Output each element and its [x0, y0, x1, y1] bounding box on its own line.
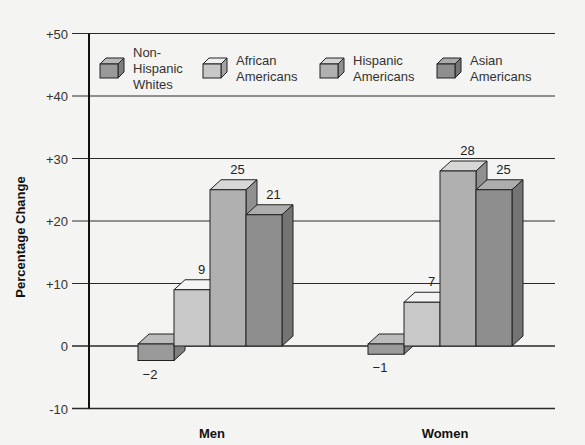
- bar-front-face: [440, 171, 476, 346]
- bar-side-face: [282, 205, 293, 346]
- bar-front-face: [138, 344, 174, 361]
- legend-swatch-front: [203, 64, 221, 78]
- bar-front-face: [476, 190, 512, 346]
- bar: 25: [476, 162, 523, 346]
- y-tick-label: +10: [46, 277, 68, 292]
- category-labels: MenWomen: [199, 426, 468, 441]
- legend-label: Hispanic: [353, 53, 403, 68]
- bar-group-men: −292521: [138, 162, 293, 382]
- legend-item: AfricanAmericans: [203, 53, 298, 84]
- bar-value-label: 28: [460, 143, 474, 158]
- legend-item: Non-HispanicWhites: [100, 45, 183, 92]
- bar-front-face: [246, 215, 282, 346]
- legend-label: Non-: [133, 45, 161, 60]
- legend-swatch-front: [100, 64, 118, 78]
- y-tick-label: +40: [46, 89, 68, 104]
- legend-label: Hispanic: [133, 61, 183, 76]
- y-tick-label: +20: [46, 214, 68, 229]
- legend-label: Americans: [353, 69, 415, 84]
- bar-value-label: 21: [266, 187, 280, 202]
- legend-label: Americans: [470, 69, 532, 84]
- bar-front-face: [210, 190, 246, 346]
- bar-value-label: −2: [143, 367, 158, 382]
- bar-side-face: [512, 180, 523, 346]
- legend-swatch-front: [437, 64, 455, 78]
- bar-chart: +50+40+30+20+100-10 −292521−172825 Non-H…: [0, 0, 585, 445]
- bar-value-label: 9: [198, 262, 205, 277]
- bar-value-label: −1: [373, 360, 388, 375]
- legend-item: HispanicAmericans: [320, 53, 415, 84]
- bar-group-women: −172825: [368, 143, 523, 375]
- legend-label: Whites: [133, 77, 173, 92]
- bar-front-face: [404, 302, 440, 346]
- bar-value-label: 25: [496, 162, 510, 177]
- category-label-women: Women: [422, 426, 469, 441]
- bar: 21: [246, 187, 293, 346]
- y-tick-label: 0: [61, 339, 68, 354]
- legend-label: Americans: [236, 69, 298, 84]
- category-label-men: Men: [199, 426, 225, 441]
- y-tick-label: +50: [46, 27, 68, 42]
- bar-value-label: 25: [230, 162, 244, 177]
- bar-value-label: 7: [428, 274, 435, 289]
- legend-label: African: [236, 53, 276, 68]
- y-tick-label: -10: [49, 402, 68, 417]
- bar-front-face: [174, 290, 210, 346]
- legend-item: AsianAmericans: [437, 53, 532, 84]
- legend-label: Asian: [470, 53, 503, 68]
- y-tick-label: +30: [46, 152, 68, 167]
- legend-swatch-front: [320, 64, 338, 78]
- bar-front-face: [368, 344, 404, 354]
- y-axis-title: Percentage Change: [13, 176, 28, 297]
- legend: Non-HispanicWhitesAfricanAmericansHispan…: [100, 45, 532, 92]
